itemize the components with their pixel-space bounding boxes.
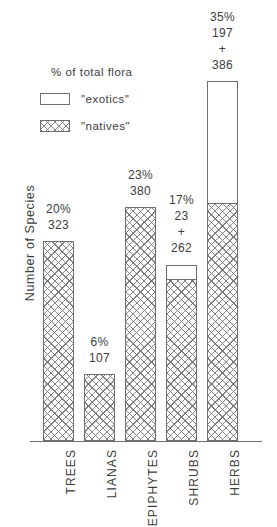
bar-group-epiphytes: 23% 380: [125, 207, 156, 441]
legend-swatch-exotics-icon: [40, 93, 70, 105]
bar-segment-exotics-herbs: [207, 81, 238, 203]
bar-exotics-count-herbs: 197: [210, 26, 235, 42]
bar-stack-trees: [43, 241, 74, 441]
bar-segment-natives-herbs: [207, 203, 238, 441]
x-axis-label-shrubs: SHRUBS: [187, 449, 201, 506]
bar-group-lianas: 6% 107: [84, 374, 115, 441]
legend-label-exotics: "exotics": [81, 93, 129, 105]
bar-segment-natives-trees: [43, 241, 74, 441]
bar-group-shrubs: 17% 23 + 262: [166, 265, 197, 441]
bar-labels-trees: 20% 323: [46, 202, 71, 234]
x-axis-label-trees: TREES: [64, 449, 78, 495]
bar-labels-shrubs: 17% 23 + 262: [169, 193, 194, 257]
bar-natives-count-shrubs: 262: [169, 241, 194, 257]
bar-group-herbs: 35% 197 + 386: [207, 81, 238, 441]
x-axis-label-lianas: LIANAS: [105, 449, 119, 498]
bar-stack-shrubs: [166, 265, 197, 441]
legend-item-exotics: "exotics": [40, 93, 220, 105]
bar-labels-lianas: 6% 107: [89, 335, 110, 367]
bar-stack-epiphytes: [125, 207, 156, 441]
bar-labels-herbs: 35% 197 + 386: [210, 10, 235, 74]
legend-label-natives: "natives": [81, 120, 130, 132]
bar-percent-herbs: 35%: [210, 10, 235, 26]
bar-segment-exotics-shrubs: [166, 265, 197, 279]
bar-natives-count-trees: 323: [46, 218, 71, 234]
bar-chart: Number of Species % of total flora "exot…: [0, 0, 277, 527]
bar-natives-count-herbs: 386: [210, 58, 235, 74]
y-axis-title: Number of Species: [23, 173, 37, 313]
bar-stack-herbs: [207, 81, 238, 441]
bar-percent-shrubs: 17%: [169, 193, 194, 209]
bar-labels-epiphytes: 23% 380: [128, 168, 153, 200]
bar-percent-lianas: 6%: [89, 335, 110, 351]
x-axis-line: [30, 441, 262, 442]
bar-plus-sign-herbs: +: [210, 42, 235, 58]
bar-natives-count-epiphytes: 380: [128, 184, 153, 200]
legend-item-natives: "natives": [40, 120, 220, 132]
bar-percent-epiphytes: 23%: [128, 168, 153, 184]
chart-legend: % of total flora "exotics" "natives": [40, 66, 220, 147]
bar-group-trees: 20% 323: [43, 241, 74, 441]
bar-natives-count-lianas: 107: [89, 351, 110, 367]
bar-segment-natives-shrubs: [166, 279, 197, 441]
bar-segment-natives-lianas: [84, 374, 115, 441]
bar-plus-sign-shrubs: +: [169, 225, 194, 241]
legend-swatch-natives-icon: [40, 120, 70, 132]
x-axis-label-epiphytes: EPIPHYTES: [146, 449, 160, 526]
bar-exotics-count-shrubs: 23: [169, 209, 194, 225]
bar-percent-trees: 20%: [46, 202, 71, 218]
legend-title: % of total flora: [51, 66, 220, 78]
x-axis-label-herbs: HERBS: [228, 449, 242, 496]
bar-segment-natives-epiphytes: [125, 207, 156, 441]
bar-stack-lianas: [84, 374, 115, 441]
